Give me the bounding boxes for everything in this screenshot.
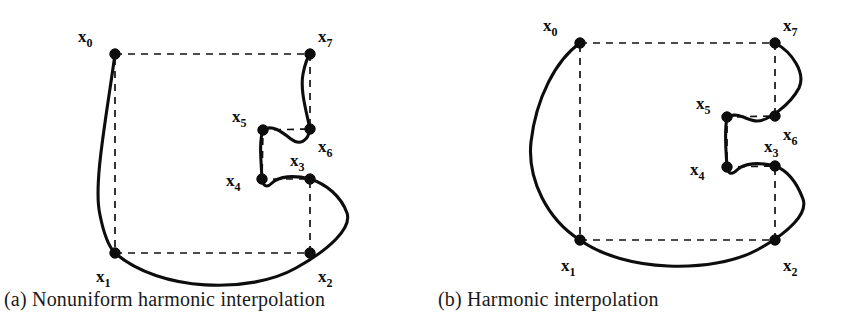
point-label-x6: x6 — [318, 137, 333, 160]
knot-x6 — [770, 111, 780, 121]
panel-b-interpolating-curve — [531, 43, 804, 266]
point-label-x7: x7 — [783, 16, 798, 39]
knot-x5 — [258, 125, 268, 135]
point-label-x5: x5 — [232, 107, 247, 130]
point-label-x0: x0 — [78, 27, 93, 50]
panel-a-drawing: x0 x1 x2 x3 x4 x5 x6 x7 — [0, 0, 428, 290]
panel-b: x0 x1 x2 x3 x4 x5 x6 x7 (b) Harmonic int… — [428, 0, 856, 333]
point-label-x0: x0 — [543, 16, 558, 39]
knot-x5 — [722, 112, 732, 122]
panel-a: x0 x1 x2 x3 x4 x5 x6 x7 (a) Nonuniform h… — [0, 0, 428, 333]
panel-a-guide-polygon — [115, 54, 310, 253]
point-label-x1: x1 — [561, 256, 576, 279]
knot-x0 — [575, 38, 585, 48]
knot-x6 — [305, 124, 315, 134]
point-label-x3: x3 — [764, 137, 779, 160]
point-label-x4: x4 — [226, 171, 241, 194]
knot-x4 — [257, 174, 267, 184]
panel-b-guide-polygon — [580, 43, 775, 240]
point-label-x3: x3 — [290, 151, 305, 174]
knot-x7 — [770, 38, 780, 48]
panel-a-caption: (a) Nonuniform harmonic interpolation — [0, 288, 432, 311]
knot-x2 — [305, 248, 315, 258]
panel-b-drawing: x0 x1 x2 x3 x4 x5 x6 x7 — [428, 0, 857, 290]
knot-x3 — [305, 174, 315, 184]
knot-x1 — [575, 235, 585, 245]
point-label-x6: x6 — [783, 125, 798, 148]
knot-x0 — [110, 49, 120, 59]
knot-x3 — [770, 161, 780, 171]
panel-b-caption: (b) Harmonic interpolation — [428, 288, 857, 311]
point-label-x1: x1 — [96, 267, 111, 290]
point-label-x4: x4 — [690, 160, 705, 183]
knot-x7 — [305, 49, 315, 59]
point-label-x5: x5 — [696, 94, 711, 117]
knot-x2 — [770, 235, 780, 245]
point-label-x2: x2 — [318, 267, 333, 290]
knot-x4 — [722, 162, 732, 172]
point-label-x7: x7 — [318, 27, 333, 50]
figure-container: x0 x1 x2 x3 x4 x5 x6 x7 (a) Nonuniform h… — [0, 0, 857, 333]
knot-x1 — [110, 248, 120, 258]
point-label-x2: x2 — [783, 256, 798, 279]
